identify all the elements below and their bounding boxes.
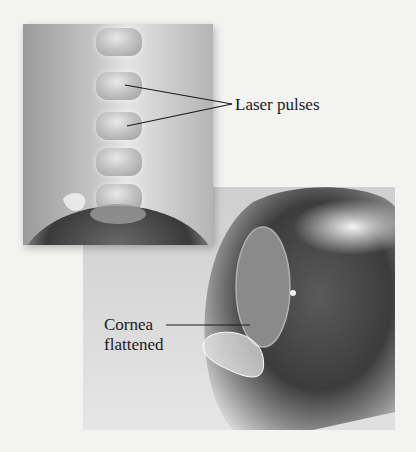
laser-pulses-panel (23, 24, 213, 245)
cornea-label-line2: flattened (104, 335, 163, 355)
cornea-label-line1: Cornea (104, 315, 163, 335)
laser-pulses-label: Laser pulses (235, 95, 320, 115)
eye-top-illustration (23, 24, 213, 245)
cornea-flattened-label: Cornea flattened (104, 315, 163, 354)
